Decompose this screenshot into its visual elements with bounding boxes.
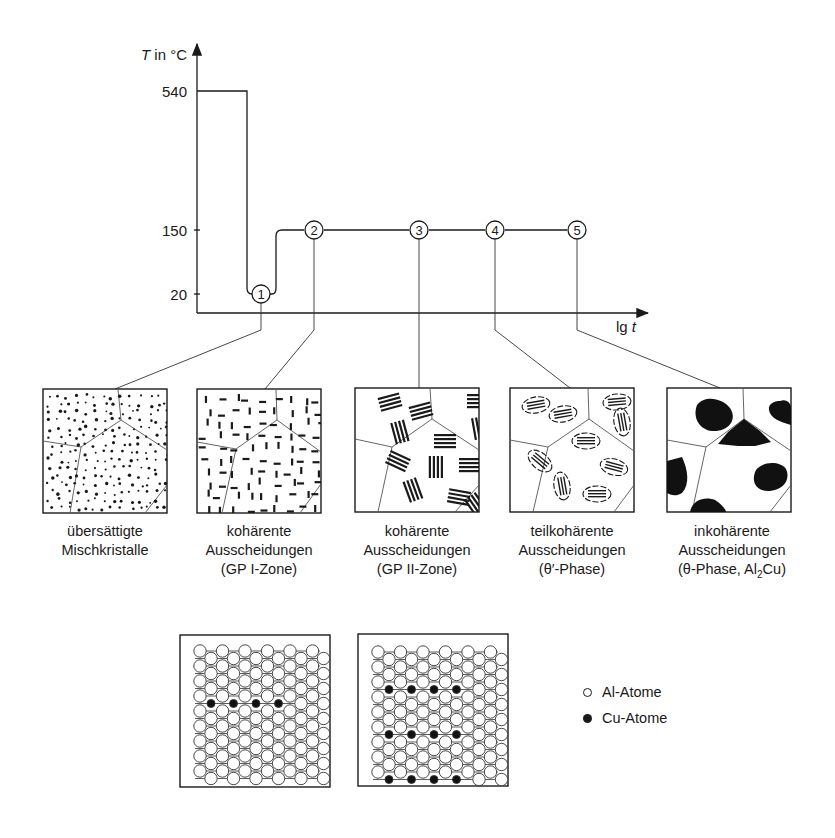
diagram-canvas: 1 2 3 4 5 T in °C 540 150 20 lg t (0, 0, 835, 838)
chart-axes (194, 44, 648, 313)
x-axis-title: lg t (616, 318, 637, 335)
y-tick-20: 20 (170, 286, 187, 303)
legend-al: Al-Atome (583, 679, 667, 705)
connector-lines (115, 239, 720, 389)
stage-label-1: 1 (257, 287, 264, 302)
lattice-gp2 (358, 634, 508, 786)
legend-cu: Cu-Atome (583, 705, 667, 731)
micrograph-gp2-zone (355, 388, 489, 518)
micrograph-supersaturated (43, 389, 171, 513)
micrograph-theta-phase (667, 388, 792, 512)
caption-theta-phase: inkohärente Ausscheidungen (θ-Phase, Al2… (652, 522, 812, 584)
y-tick-150: 150 (162, 222, 187, 239)
caption-gp1-zone: kohärente Ausscheidungen (GP I-Zone) (184, 522, 334, 579)
open-circle-icon (583, 688, 592, 697)
y-axis-title: T in °C (141, 46, 187, 63)
lattice-gp1 (180, 635, 330, 787)
stage-label-5: 5 (573, 223, 580, 238)
micrograph-theta-prime-phase (510, 388, 634, 512)
stage-label-2: 2 (310, 223, 317, 238)
caption-supersaturated: übersättigte Mischkristalle (30, 522, 180, 560)
filled-circle-icon (583, 714, 592, 723)
y-tick-540: 540 (162, 83, 187, 100)
stage-label-3: 3 (415, 223, 422, 238)
temperature-curve (197, 91, 567, 294)
micrograph-gp1-zone (197, 389, 325, 514)
caption-gp2-zone: kohärente Ausscheidungen (GP II-Zone) (342, 522, 492, 579)
caption-theta-prime: teilkohärente Ausscheidungen (θ′-Phase) (497, 522, 647, 579)
atom-legend: Al-Atome Cu-Atome (583, 679, 667, 731)
stage-label-4: 4 (491, 223, 498, 238)
